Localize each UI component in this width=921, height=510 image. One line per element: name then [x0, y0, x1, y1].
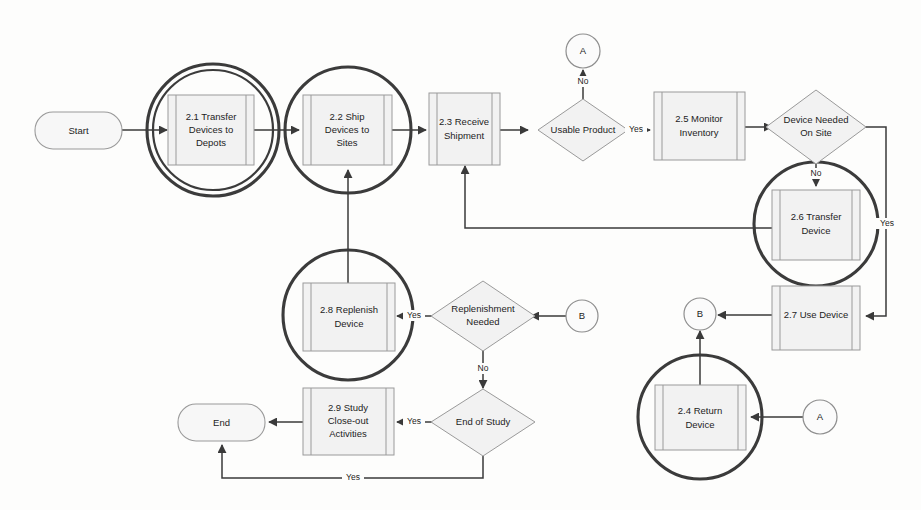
- node-start[interactable]: Start: [35, 112, 122, 149]
- node-2-1-label-line-3: Depots: [196, 137, 226, 148]
- node-2-9-label-line-2: Close-out: [328, 415, 369, 426]
- connector-a-bottom[interactable]: A: [803, 400, 837, 434]
- node-2-2-ship-devices-to-sites[interactable]: 2.2 Ship Devices to Sites: [303, 95, 392, 165]
- connector-b-right[interactable]: B: [566, 300, 598, 332]
- node-2-2-label-line-2: Devices to: [325, 124, 369, 135]
- edge-label-endofstudy-yes-bottom: Yes: [346, 472, 360, 482]
- connector-a-top-label: A: [580, 45, 587, 56]
- node-2-8-label-line-2: Device: [334, 318, 363, 329]
- edge-label-replenishment-no: No: [478, 363, 489, 373]
- node-device-needed-on-site-decision[interactable]: Device Needed On Site: [766, 90, 866, 164]
- node-start-label: Start: [68, 125, 88, 136]
- edge-label-endofstudy-yes: Yes: [407, 416, 421, 426]
- node-2-9-study-close-out-activities[interactable]: 2.9 Study Close-out Activities: [303, 388, 394, 455]
- connector-b-right-label: B: [579, 310, 585, 321]
- node-replenishment-label-line-2: Needed: [466, 316, 499, 327]
- node-usable-product-decision[interactable]: Usable Product: [538, 99, 628, 161]
- connector-b-middle-label: B: [697, 308, 703, 319]
- edge-label-usable-yes: Yes: [629, 124, 643, 134]
- node-2-4-label-line-2: Device: [685, 419, 714, 430]
- node-2-9-label-line-1: 2.9 Study: [328, 402, 368, 413]
- node-2-3-label-line-1: 2.3 Receive: [439, 116, 489, 127]
- node-usable-product-label: Usable Product: [551, 124, 616, 135]
- node-device-needed-label-line-1: Device Needed: [784, 114, 849, 125]
- node-2-4-label-line-1: 2.4 Return: [678, 405, 722, 416]
- node-2-9-label-line-3: Activities: [329, 428, 367, 439]
- connector-a-bottom-label: A: [817, 411, 824, 422]
- edge-label-replenishment-yes: Yes: [407, 310, 421, 320]
- flowchart-canvas: Start 2.1 Transfer Devices to Depots 2.2…: [0, 0, 921, 510]
- node-2-2-label-line-1: 2.2 Ship: [330, 111, 365, 122]
- edge-label-needed-yes: Yes: [880, 218, 894, 228]
- node-2-5-label-line-2: Inventory: [679, 127, 718, 138]
- node-2-7-label: 2.7 Use Device: [784, 309, 848, 320]
- node-2-1-label-line-1: 2.1 Transfer: [186, 111, 237, 122]
- connector-b-middle[interactable]: B: [684, 298, 716, 330]
- edge-label-usable-no: No: [578, 76, 589, 86]
- node-2-6-transfer-device[interactable]: 2.6 Transfer Device: [772, 190, 860, 260]
- node-replenishment-needed-decision[interactable]: Replenishment Needed: [431, 281, 535, 351]
- node-end[interactable]: End: [178, 404, 265, 441]
- edge-26-to-23: [465, 166, 772, 228]
- node-2-1-label-line-2: Devices to: [189, 124, 233, 135]
- node-replenishment-label-line-1: Replenishment: [451, 303, 515, 314]
- node-2-8-replenish-device[interactable]: 2.8 Replenish Device: [303, 283, 395, 351]
- node-2-3-receive-shipment[interactable]: 2.3 Receive Shipment: [429, 93, 500, 165]
- flowchart-svg: Start 2.1 Transfer Devices to Depots 2.2…: [0, 0, 921, 510]
- node-2-6-label-line-2: Device: [801, 225, 830, 236]
- node-2-8-label-line-1: 2.8 Replenish: [320, 304, 378, 315]
- node-2-7-use-device[interactable]: 2.7 Use Device: [772, 286, 860, 350]
- node-end-of-study-label: End of Study: [456, 416, 511, 427]
- node-end-of-study-decision[interactable]: End of Study: [431, 389, 535, 456]
- node-2-5-monitor-inventory[interactable]: 2.5 Monitor Inventory: [654, 92, 745, 160]
- node-2-2-label-line-3: Sites: [336, 137, 357, 148]
- node-2-4-return-device[interactable]: 2.4 Return Device: [655, 385, 746, 450]
- node-2-5-label-line-1: 2.5 Monitor: [675, 113, 723, 124]
- connector-a-top[interactable]: A: [566, 34, 600, 68]
- node-2-1-transfer-devices-to-depots[interactable]: 2.1 Transfer Devices to Depots: [168, 95, 254, 165]
- node-end-label: End: [213, 417, 230, 428]
- node-2-3-label-line-2: Shipment: [444, 130, 484, 141]
- node-device-needed-label-line-2: On Site: [800, 127, 832, 138]
- node-2-6-label-line-1: 2.6 Transfer: [791, 211, 842, 222]
- edge-label-needed-no: No: [811, 168, 822, 178]
